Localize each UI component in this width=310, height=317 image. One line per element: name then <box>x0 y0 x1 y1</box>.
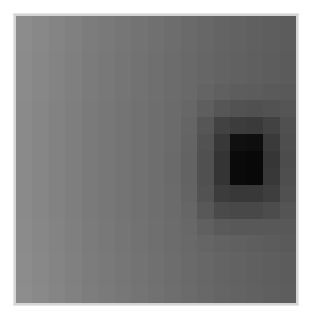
heatmap-cell <box>181 202 197 219</box>
heatmap-cell <box>197 168 213 185</box>
heatmap-cell <box>214 168 230 185</box>
heatmap-cell <box>65 269 81 286</box>
heatmap-cell <box>82 219 98 236</box>
heatmap-cell <box>230 286 246 303</box>
heatmap-cell <box>148 235 164 252</box>
heatmap-cell <box>65 50 81 67</box>
heatmap-cell <box>247 252 263 269</box>
heatmap-cell <box>164 185 180 202</box>
heatmap-cell <box>82 168 98 185</box>
heatmap-cell <box>181 252 197 269</box>
heatmap-cell <box>98 168 114 185</box>
heatmap-cell <box>181 219 197 236</box>
heatmap-cell <box>230 67 246 84</box>
heatmap-cell <box>49 168 65 185</box>
heatmap-cell <box>131 269 147 286</box>
heatmap-cell <box>98 235 114 252</box>
heatmap-cell <box>164 269 180 286</box>
heatmap-cell <box>82 286 98 303</box>
heatmap-cell <box>164 134 180 151</box>
heatmap-cell <box>49 202 65 219</box>
heatmap-cell <box>98 286 114 303</box>
heatmap-cell <box>181 134 197 151</box>
heatmap-cell <box>181 117 197 134</box>
heatmap-cell <box>181 67 197 84</box>
heatmap-cell <box>148 67 164 84</box>
heatmap-cell <box>247 235 263 252</box>
heatmap-cell <box>230 185 246 202</box>
heatmap-cell <box>82 185 98 202</box>
heatmap-cell <box>131 235 147 252</box>
heatmap-cell <box>280 235 296 252</box>
heatmap-cell <box>214 117 230 134</box>
heatmap-cell <box>148 286 164 303</box>
heatmap-cell <box>181 185 197 202</box>
heatmap-cell <box>197 235 213 252</box>
heatmap-cell <box>230 134 246 151</box>
heatmap-cell <box>148 33 164 50</box>
heatmap-cell <box>115 202 131 219</box>
heatmap-cell <box>230 100 246 117</box>
heatmap-cell <box>197 286 213 303</box>
heatmap-cell <box>82 134 98 151</box>
heatmap-cell <box>49 235 65 252</box>
heatmap-cell <box>49 185 65 202</box>
heatmap-cell <box>214 202 230 219</box>
heatmap-cell <box>49 84 65 101</box>
heatmap-cell <box>280 219 296 236</box>
heatmap-cell <box>82 33 98 50</box>
heatmap-cell <box>16 84 32 101</box>
heatmap-cell <box>148 168 164 185</box>
heatmap-cell <box>65 117 81 134</box>
heatmap-cell <box>49 100 65 117</box>
heatmap-cell <box>32 202 48 219</box>
heatmap-cell <box>263 168 279 185</box>
heatmap-cell <box>197 33 213 50</box>
heatmap-cell <box>280 84 296 101</box>
heatmap-cell <box>214 151 230 168</box>
heatmap-cell <box>164 202 180 219</box>
heatmap-cell <box>148 185 164 202</box>
heatmap-cell <box>16 202 32 219</box>
heatmap-cell <box>49 151 65 168</box>
heatmap-cell <box>131 202 147 219</box>
heatmap-cell <box>263 269 279 286</box>
heatmap-cell <box>49 286 65 303</box>
heatmap-cell <box>49 252 65 269</box>
heatmap-cell <box>16 235 32 252</box>
heatmap-cell <box>247 168 263 185</box>
heatmap-cell <box>98 117 114 134</box>
heatmap-cell <box>131 134 147 151</box>
heatmap-cell <box>214 67 230 84</box>
heatmap-cell <box>280 269 296 286</box>
heatmap-cell <box>65 252 81 269</box>
heatmap-cell <box>247 134 263 151</box>
heatmap-cell <box>82 252 98 269</box>
heatmap-cell <box>98 100 114 117</box>
heatmap-cell <box>115 219 131 236</box>
heatmap-cell <box>98 252 114 269</box>
heatmap-cell <box>247 151 263 168</box>
heatmap-cell <box>98 202 114 219</box>
heatmap-cell <box>32 33 48 50</box>
heatmap-cell <box>115 117 131 134</box>
heatmap-cell <box>49 33 65 50</box>
heatmap-cell <box>214 219 230 236</box>
heatmap-cell <box>197 202 213 219</box>
heatmap-cell <box>115 286 131 303</box>
heatmap-cell <box>230 252 246 269</box>
heatmap-cell <box>131 117 147 134</box>
heatmap-cell <box>164 33 180 50</box>
heatmap-cell <box>115 67 131 84</box>
heatmap-cell <box>214 269 230 286</box>
heatmap-cell <box>214 100 230 117</box>
heatmap-cell <box>82 67 98 84</box>
heatmap-cell <box>280 117 296 134</box>
heatmap-cell <box>263 235 279 252</box>
heatmap-cell <box>65 286 81 303</box>
heatmap-cell <box>16 117 32 134</box>
heatmap-cell <box>230 168 246 185</box>
heatmap-cell <box>148 16 164 33</box>
heatmap-cell <box>280 168 296 185</box>
heatmap-cell <box>98 185 114 202</box>
